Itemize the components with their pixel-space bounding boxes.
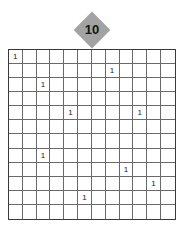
grid-cell[interactable] — [9, 78, 23, 92]
grid-cell[interactable] — [9, 205, 23, 219]
grid-cell[interactable]: 1 — [147, 177, 161, 191]
grid-cell[interactable] — [50, 205, 64, 219]
grid-cell[interactable] — [133, 205, 147, 219]
grid-cell[interactable] — [120, 92, 134, 106]
grid-cell[interactable] — [23, 78, 37, 92]
grid-cell[interactable] — [50, 120, 64, 134]
grid-cell[interactable] — [92, 64, 106, 78]
grid-cell[interactable] — [106, 120, 120, 134]
grid-cell[interactable] — [78, 120, 92, 134]
grid-cell[interactable]: 1 — [120, 163, 134, 177]
grid-cell[interactable] — [50, 177, 64, 191]
grid-cell[interactable]: 1 — [37, 78, 51, 92]
grid-cell[interactable] — [50, 163, 64, 177]
grid-cell[interactable] — [37, 50, 51, 64]
grid-cell[interactable] — [92, 134, 106, 148]
grid-cell[interactable] — [120, 120, 134, 134]
grid-cell[interactable] — [161, 50, 175, 64]
grid-cell[interactable] — [78, 78, 92, 92]
grid-cell[interactable] — [92, 78, 106, 92]
grid-cell[interactable] — [64, 205, 78, 219]
grid-cell[interactable] — [106, 78, 120, 92]
grid-cell[interactable] — [50, 134, 64, 148]
grid-cell[interactable] — [106, 134, 120, 148]
grid-cell[interactable] — [78, 106, 92, 120]
grid-cell[interactable] — [23, 205, 37, 219]
grid-cell[interactable] — [37, 191, 51, 205]
grid-cell[interactable] — [147, 92, 161, 106]
grid-cell[interactable] — [147, 191, 161, 205]
grid-cell[interactable] — [106, 149, 120, 163]
grid-cell[interactable] — [23, 177, 37, 191]
grid-cell[interactable] — [78, 205, 92, 219]
grid-cell[interactable] — [133, 50, 147, 64]
grid-cell[interactable] — [50, 106, 64, 120]
grid-cell[interactable] — [92, 92, 106, 106]
grid-cell[interactable] — [92, 106, 106, 120]
grid-cell[interactable] — [120, 134, 134, 148]
grid-cell[interactable] — [64, 50, 78, 64]
grid-cell[interactable] — [161, 92, 175, 106]
grid-cell[interactable] — [120, 50, 134, 64]
grid-cell[interactable] — [133, 64, 147, 78]
grid-cell[interactable] — [37, 205, 51, 219]
grid-cell[interactable] — [161, 205, 175, 219]
grid-cell[interactable] — [9, 191, 23, 205]
grid-cell[interactable]: 1 — [9, 50, 23, 64]
grid-cell[interactable] — [37, 120, 51, 134]
grid-cell[interactable]: 1 — [78, 191, 92, 205]
grid-cell[interactable] — [64, 177, 78, 191]
grid-cell[interactable] — [50, 191, 64, 205]
grid-cell[interactable] — [120, 64, 134, 78]
grid-cell[interactable] — [23, 163, 37, 177]
grid-cell[interactable] — [23, 149, 37, 163]
grid-cell[interactable] — [106, 50, 120, 64]
grid-cell[interactable] — [9, 134, 23, 148]
grid-cell[interactable] — [23, 134, 37, 148]
grid-cell[interactable] — [37, 134, 51, 148]
grid-cell[interactable] — [147, 163, 161, 177]
grid-cell[interactable] — [133, 120, 147, 134]
grid-cell[interactable] — [78, 50, 92, 64]
grid-cell[interactable] — [37, 177, 51, 191]
grid-cell[interactable] — [147, 78, 161, 92]
grid-cell[interactable] — [9, 163, 23, 177]
grid-cell[interactable] — [37, 92, 51, 106]
grid-cell[interactable] — [147, 134, 161, 148]
grid-cell[interactable] — [37, 163, 51, 177]
grid-cell[interactable] — [50, 50, 64, 64]
grid-cell[interactable] — [78, 92, 92, 106]
grid-cell[interactable] — [161, 134, 175, 148]
grid-cell[interactable] — [133, 92, 147, 106]
grid-cell[interactable] — [147, 149, 161, 163]
grid-cell[interactable] — [147, 205, 161, 219]
grid-cell[interactable] — [133, 191, 147, 205]
grid-cell[interactable] — [161, 78, 175, 92]
grid-cell[interactable] — [23, 120, 37, 134]
grid-cell[interactable] — [64, 163, 78, 177]
grid-cell[interactable] — [120, 177, 134, 191]
grid-cell[interactable] — [9, 64, 23, 78]
grid-cell[interactable] — [64, 120, 78, 134]
grid-cell[interactable] — [92, 149, 106, 163]
grid-cell[interactable] — [23, 191, 37, 205]
grid-cell[interactable] — [92, 205, 106, 219]
grid-cell[interactable] — [120, 78, 134, 92]
grid-cell[interactable] — [147, 50, 161, 64]
grid-cell[interactable] — [50, 92, 64, 106]
puzzle-grid[interactable]: 111111111 — [8, 49, 176, 220]
grid-cell[interactable]: 1 — [37, 149, 51, 163]
grid-cell[interactable] — [9, 120, 23, 134]
grid-cell[interactable] — [161, 191, 175, 205]
grid-cell[interactable] — [9, 149, 23, 163]
grid-cell[interactable] — [23, 64, 37, 78]
grid-cell[interactable] — [78, 64, 92, 78]
grid-cell[interactable] — [64, 149, 78, 163]
grid-cell[interactable]: 1 — [64, 106, 78, 120]
grid-cell[interactable] — [161, 106, 175, 120]
grid-cell[interactable] — [133, 134, 147, 148]
grid-cell[interactable] — [106, 163, 120, 177]
grid-cell[interactable] — [147, 106, 161, 120]
grid-cell[interactable] — [78, 149, 92, 163]
grid-cell[interactable] — [106, 92, 120, 106]
